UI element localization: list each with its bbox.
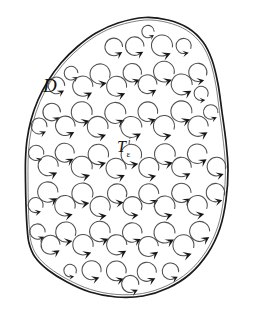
- figure-canvas: D T i ε: [0, 0, 255, 314]
- label-triangle-superscript-i: i: [128, 136, 131, 146]
- label-domain-D: D: [42, 75, 57, 96]
- label-triangle-subscript-epsilon: ε: [127, 149, 131, 159]
- label-triangle-T-group: T i ε: [117, 136, 131, 159]
- labels-svg: D T i ε: [0, 0, 255, 314]
- label-triangle-T: T: [117, 138, 127, 155]
